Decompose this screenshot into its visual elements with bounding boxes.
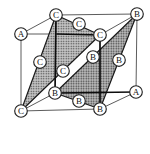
cube-edge xyxy=(21,109,100,111)
atom-C-front-top-right-corner: C xyxy=(94,29,107,42)
atom-C-front-bottom-left-corner: C xyxy=(15,105,28,118)
cube-edge xyxy=(56,14,137,15)
atom-C-top-face-center: C xyxy=(73,18,86,31)
atom-C-left-face-center: C xyxy=(34,56,47,69)
atom-B-right-face-center: B xyxy=(113,54,126,67)
atom-B-back-face-center: B xyxy=(87,51,100,64)
atom-A-front-top-left-corner: A xyxy=(15,28,28,41)
atom-B-bottom-face-center: B xyxy=(73,95,86,108)
atom-C-front-face-center: C xyxy=(57,65,70,78)
atom-B-front-bottom-right-corner: B xyxy=(94,103,107,116)
atom-C-back-top-left-corner: C xyxy=(50,9,63,22)
atom-A-back-bottom-right-corner: A xyxy=(130,86,143,99)
atom-B-back-bottom-left-corner: B xyxy=(49,87,62,100)
cube-edge xyxy=(136,14,137,92)
cube-edge-bold xyxy=(55,15,56,93)
atom-B-back-top-right-corner: B xyxy=(131,8,144,21)
fcc-unit-cell-diagram: ACCBCCCBBBBBAC xyxy=(0,0,150,154)
crystal-structure-figure: ACCBCCCBBBBBAC xyxy=(0,0,150,154)
cube-edge-bold xyxy=(55,92,136,93)
